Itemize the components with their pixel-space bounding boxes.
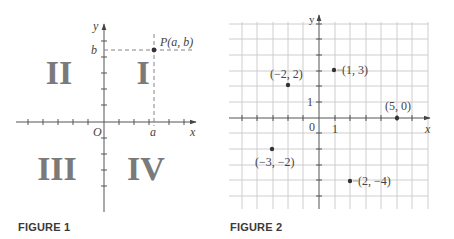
- fig2-x-axis-label: x: [424, 122, 431, 136]
- fig2-point-2-neg4: (2, −4): [348, 174, 391, 188]
- fig1-b-label: b: [91, 43, 97, 57]
- fig1-origin-label: O: [93, 125, 102, 139]
- point-label: (−3, −2): [255, 155, 295, 169]
- quadrant-ii-label: II: [46, 54, 72, 91]
- fig1-point-p: [152, 48, 157, 53]
- figure-1: P(a, b) b a y x O I II III IV FIGURE 1: [16, 19, 196, 233]
- fig2-origin-label: 0: [309, 120, 315, 134]
- fig1-point-label: P(a, b): [159, 35, 193, 49]
- point-label: (5, 0): [385, 99, 411, 113]
- quadrant-iv-label: IV: [127, 150, 165, 187]
- fig2-y-axis-label: y: [309, 13, 315, 25]
- figures-canvas: P(a, b) b a y x O I II III IV FIGURE 1: [0, 0, 454, 239]
- figure-2-caption: FIGURE 2: [230, 221, 282, 233]
- point-label: (2, −4): [358, 174, 391, 188]
- fig1-y-axis-label: y: [92, 19, 99, 33]
- quadrant-iii-label: III: [37, 150, 77, 187]
- fig2-point-1-3: (1, 3): [332, 63, 368, 77]
- fig2-unit-x-label: 1: [332, 122, 338, 136]
- fig2-point-neg3-neg2: (−3, −2): [255, 147, 295, 169]
- figure-1-caption: FIGURE 1: [18, 221, 70, 233]
- fig1-a-label: a: [150, 125, 156, 139]
- quadrant-i-label: I: [136, 54, 149, 91]
- fig2-point-5-0: (5, 0): [385, 99, 411, 120]
- point-label: (1, 3): [342, 63, 368, 77]
- figure-2: y x 0 1 1 (1, 3) (−2, 2) (5, 0) (−3, −2)…: [229, 13, 431, 233]
- fig1-x-axis-label: x: [189, 125, 196, 139]
- fig2-point-neg2-2: (−2, 2): [270, 67, 303, 87]
- point-label: (−2, 2): [270, 67, 303, 81]
- fig2-unit-y-label: 1: [307, 95, 313, 109]
